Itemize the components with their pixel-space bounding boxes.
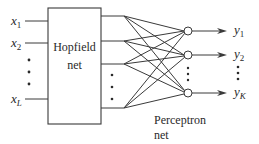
input-label-1: x1 xyxy=(10,13,21,30)
input-labels: x1 x2 xL xyxy=(10,13,22,108)
input-ellipsis-dots xyxy=(28,59,31,86)
output-ellipsis-dots xyxy=(237,66,240,81)
hopfield-output-lines xyxy=(101,16,124,108)
hopfield-label-line2: net xyxy=(67,58,82,72)
perceptron-label-line2: net xyxy=(154,128,169,142)
perceptron-node-K xyxy=(184,89,192,97)
output-label-2: y2 xyxy=(232,46,244,63)
output-arrows xyxy=(192,28,227,96)
perceptron-node-2 xyxy=(184,51,192,59)
hopfield-perceptron-diagram: x1 x2 xL Hopfield net xyxy=(0,0,259,144)
output-label-1: y1 xyxy=(232,22,244,39)
hopfield-label-line1: Hopfield xyxy=(53,40,96,54)
input-label-L: xL xyxy=(10,91,22,108)
perceptron-label-line1: Perceptron xyxy=(154,113,206,127)
node-ellipsis-dots xyxy=(187,67,189,81)
perceptron-connections xyxy=(124,16,185,108)
perceptron-node-1 xyxy=(184,27,192,35)
output-labels: y1 y2 yK xyxy=(232,22,247,101)
output-label-K: yK xyxy=(232,84,247,101)
hopfield-output-ellipsis-dots xyxy=(111,74,114,101)
input-label-2: x2 xyxy=(10,35,21,52)
perceptron-nodes xyxy=(184,27,192,97)
